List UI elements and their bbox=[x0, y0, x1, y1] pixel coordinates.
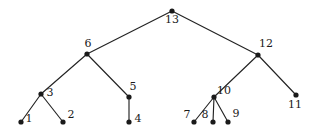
tree-node-label: 8 bbox=[202, 108, 209, 121]
tree-node-label: 2 bbox=[68, 108, 75, 121]
tree-node-label: 4 bbox=[135, 112, 142, 125]
tree-edge bbox=[258, 55, 296, 95]
labels-group: 13612351011124789 bbox=[26, 13, 303, 125]
tree-edge bbox=[213, 97, 214, 122]
tree-node-dot[interactable] bbox=[38, 91, 43, 96]
tree-diagram: 13612351011124789 bbox=[0, 0, 320, 133]
tree-node-label: 1 bbox=[26, 112, 33, 125]
tree-node-label: 10 bbox=[217, 84, 231, 97]
edges-group bbox=[21, 11, 296, 122]
tree-edge bbox=[87, 11, 172, 54]
tree-node-label: 12 bbox=[259, 37, 273, 50]
tree-node-label: 5 bbox=[130, 80, 137, 93]
tree-node-label: 13 bbox=[165, 13, 179, 26]
tree-node-dot[interactable] bbox=[18, 119, 23, 124]
tree-edge bbox=[87, 54, 129, 97]
tree-node-dot[interactable] bbox=[210, 119, 215, 124]
tree-node-dot[interactable] bbox=[126, 119, 131, 124]
tree-node-label: 7 bbox=[184, 108, 191, 121]
tree-edge bbox=[172, 11, 258, 55]
tree-edge bbox=[214, 97, 228, 122]
tree-node-label: 3 bbox=[47, 86, 54, 99]
tree-node-dot[interactable] bbox=[225, 119, 230, 124]
tree-node-dot[interactable] bbox=[84, 51, 89, 56]
tree-node-dot[interactable] bbox=[191, 119, 196, 124]
tree-node-label: 6 bbox=[85, 37, 92, 50]
nodes-group bbox=[18, 8, 298, 124]
tree-node-label: 11 bbox=[288, 98, 302, 111]
tree-node-dot[interactable] bbox=[211, 94, 216, 99]
tree-node-label: 9 bbox=[233, 107, 240, 120]
tree-node-dot[interactable] bbox=[60, 119, 65, 124]
tree-canvas: 13612351011124789 bbox=[0, 0, 320, 133]
tree-node-dot[interactable] bbox=[126, 94, 131, 99]
tree-node-dot[interactable] bbox=[255, 52, 260, 57]
tree-node-dot[interactable] bbox=[293, 92, 298, 97]
